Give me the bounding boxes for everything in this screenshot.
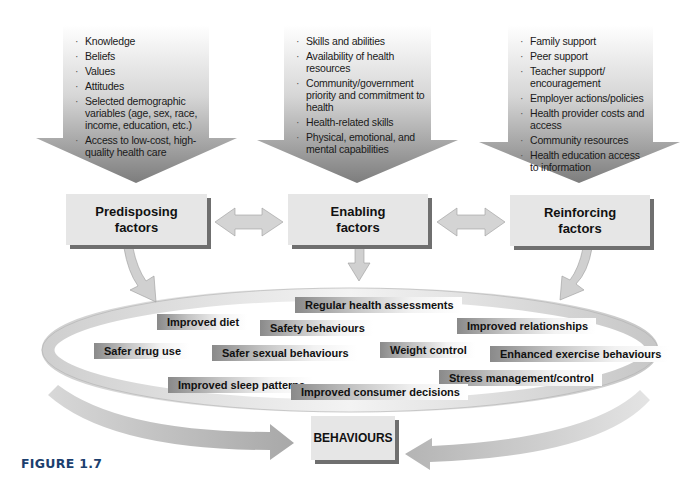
- behaviour-tag: Improved diet: [157, 314, 247, 330]
- list-item: Beliefs: [73, 50, 203, 62]
- box-title-line1: Reinforcing: [544, 205, 616, 221]
- box-title-line1: Predisposing: [95, 204, 177, 220]
- list-item: Community/government priority and commit…: [294, 77, 429, 113]
- list-item: Peer support: [518, 50, 650, 62]
- behaviour-tag: Safety behaviours: [260, 320, 373, 336]
- behaviour-tag: Regular health assessments: [295, 297, 462, 313]
- figure-label: FIGURE 1.7: [21, 456, 102, 471]
- double-arrow-predisposing-enabling: [215, 208, 283, 236]
- reinforcing-factor-list: Family support Peer support Teacher supp…: [518, 35, 650, 176]
- reinforcing-factors-box: Reinforcing factors: [510, 195, 650, 246]
- behaviour-tag: Safer sexual behaviours: [212, 345, 357, 361]
- predisposing-factors-box: Predisposing factors: [66, 194, 207, 245]
- enabling-factors-box: Enabling factors: [288, 194, 428, 245]
- list-item: Availability of health resources: [294, 50, 429, 74]
- list-item: Values: [73, 65, 203, 77]
- behaviour-tag: Weight control: [380, 342, 475, 358]
- behaviours-label: BEHAVIOURS: [313, 430, 392, 446]
- box-title-line1: Enabling: [331, 204, 386, 220]
- double-arrow-enabling-reinforcing: [437, 208, 505, 236]
- box-title-line2: factors: [544, 221, 616, 237]
- box-title-line2: factors: [331, 220, 386, 236]
- list-item: Skills and abilities: [294, 35, 429, 47]
- predisposing-to-ring-arrow: [124, 248, 156, 302]
- behaviour-tag: Improved consumer decisions: [291, 384, 468, 400]
- list-item: Health-related skills: [294, 116, 429, 128]
- list-item: Health education access to information: [518, 149, 650, 173]
- behaviour-tag: Enhanced exercise behaviours: [490, 346, 669, 362]
- list-item: Community resources: [518, 134, 650, 146]
- predisposing-factor-list: Knowledge Beliefs Values Attitudes Selec…: [73, 35, 203, 161]
- list-item: Attitudes: [73, 80, 203, 92]
- list-item: Knowledge: [73, 35, 203, 47]
- behaviours-box: BEHAVIOURS: [311, 416, 395, 460]
- reinforcing-to-ring-arrow: [560, 248, 592, 300]
- list-item: Employer actions/policies: [518, 92, 650, 104]
- behaviour-tag: Safer drug use: [94, 343, 189, 359]
- list-item: Family support: [518, 35, 650, 47]
- enabling-factor-list: Skills and abilities Availability of hea…: [294, 35, 429, 158]
- list-item: Selected demographic variables (age, sex…: [73, 95, 203, 131]
- list-item: Physical, emotional, and mental capabili…: [294, 131, 429, 155]
- behaviour-tag: Improved relationships: [457, 318, 596, 334]
- box-title-line2: factors: [95, 220, 177, 236]
- list-item: Access to low-cost, high-quality health …: [73, 134, 203, 158]
- enabling-to-ring-arrow: [348, 248, 370, 281]
- list-item: Teacher support/ encouragement: [518, 65, 650, 89]
- list-item: Health provider costs and access: [518, 107, 650, 131]
